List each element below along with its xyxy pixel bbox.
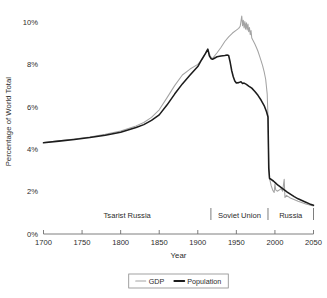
y-tick-label: 10% — [23, 18, 38, 27]
y-tick-label: 6% — [27, 103, 38, 112]
chart-legend: GDPPopulation — [129, 274, 229, 288]
x-axis-tick-labels: 17001750180018501900195020002050 — [35, 238, 322, 247]
x-axis-title-group: Year — [171, 251, 187, 260]
legend-label-gdp: GDP — [149, 277, 165, 286]
era-bracket-group: Tsarist RussiaSoviet UnionRussia — [104, 208, 314, 220]
y-tick-label: 2% — [27, 187, 38, 196]
x-axis-title: Year — [171, 251, 187, 260]
data-series-group — [44, 16, 314, 206]
series-line-population — [44, 49, 314, 205]
y-tick-label: 4% — [27, 145, 38, 154]
x-axis-group — [44, 230, 314, 234]
y-axis-title: Percentage of World Total — [4, 77, 13, 167]
x-tick-label: 2050 — [305, 238, 322, 247]
x-tick-label: 1700 — [35, 238, 52, 247]
legend-label-population: Population — [187, 277, 221, 286]
x-tick-label: 1950 — [228, 238, 245, 247]
era-label: Soviet Union — [218, 211, 261, 220]
era-label: Russia — [279, 211, 303, 220]
era-label: Tsarist Russia — [104, 211, 152, 220]
line-chart-figure: 0%2%4%6%8%10% Percentage of World Total … — [0, 0, 327, 298]
x-tick-label: 2000 — [266, 238, 283, 247]
y-tick-label: 8% — [27, 60, 38, 69]
y-axis-tick-labels: 0%2%4%6%8%10% — [23, 18, 38, 239]
x-tick-label: 1900 — [189, 238, 206, 247]
y-axis-title-group: Percentage of World Total — [4, 77, 13, 167]
chart-container: 0%2%4%6%8%10% Percentage of World Total … — [0, 0, 327, 298]
x-tick-label: 1800 — [112, 238, 129, 247]
x-tick-label: 1850 — [151, 238, 168, 247]
series-line-gdp — [44, 16, 314, 206]
x-tick-label: 1750 — [74, 238, 91, 247]
